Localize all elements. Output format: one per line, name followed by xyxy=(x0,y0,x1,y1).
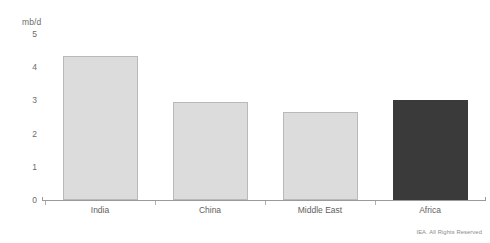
y-axis-tick-label: 3 xyxy=(32,95,37,105)
x-axis-category-label: Africa xyxy=(419,205,441,215)
x-axis-tick xyxy=(375,201,376,205)
x-axis-tick xyxy=(45,201,46,205)
y-axis-tick-label: 1 xyxy=(32,162,37,172)
x-axis-category-label: Middle East xyxy=(298,205,342,215)
axis-end-cap xyxy=(42,197,43,201)
x-axis-tick xyxy=(155,201,156,205)
y-axis-tick-label: 5 xyxy=(32,29,37,39)
axis-end-cap xyxy=(485,197,486,201)
bar-middle-east[interactable] xyxy=(283,112,358,200)
y-axis: 012345 xyxy=(0,34,45,200)
x-axis-line xyxy=(42,200,486,201)
bar-chart: mb/d 012345 IEA. All Rights Reserved Ind… xyxy=(0,0,490,243)
plot-area xyxy=(45,34,485,200)
copyright-notice: IEA. All Rights Reserved xyxy=(416,229,482,235)
y-axis-tick-label: 2 xyxy=(32,129,37,139)
bar-china[interactable] xyxy=(173,102,248,200)
x-axis-tick xyxy=(265,201,266,205)
y-axis-unit-label: mb/d xyxy=(22,17,41,27)
y-axis-tick-label: 4 xyxy=(32,62,37,72)
bar-india[interactable] xyxy=(63,56,138,200)
y-axis-tick-label: 0 xyxy=(32,195,37,205)
x-axis-category-label: India xyxy=(91,205,109,215)
bar-africa[interactable] xyxy=(393,100,468,200)
x-axis-category-label: China xyxy=(199,205,221,215)
